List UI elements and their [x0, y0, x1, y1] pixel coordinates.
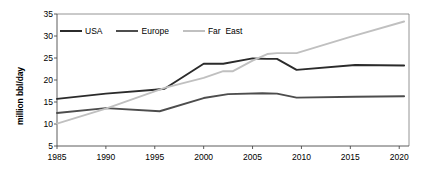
legend-item: Far East	[183, 26, 242, 36]
line-chart: million bbl/day 3530252015105 1985199019…	[0, 0, 421, 179]
legend-swatch-icon	[116, 30, 138, 32]
legend-label: Far East	[208, 26, 242, 36]
legend-label: Europe	[141, 26, 168, 36]
series-line-europe	[57, 93, 404, 113]
legend-item: USA	[60, 26, 102, 36]
chart-legend: USAEuropeFar East	[60, 24, 242, 38]
legend-swatch-icon	[60, 30, 82, 32]
legend-item: Europe	[116, 26, 168, 36]
legend-swatch-icon	[183, 30, 205, 32]
series-line-usa	[57, 58, 404, 98]
legend-label: USA	[85, 26, 102, 36]
